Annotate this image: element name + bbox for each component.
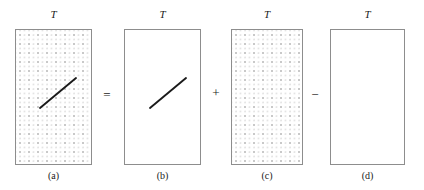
operator-equals: =: [100, 88, 114, 102]
panel-b-rectangle: [124, 29, 201, 165]
panel-b-title: T: [124, 8, 201, 20]
figure-canvas: T (a) = T (b) + T (c) − T (d): [0, 0, 424, 190]
panel-c-rectangle: [231, 29, 303, 165]
panel-a-rectangle: [15, 29, 92, 165]
panel-c-title: T: [231, 8, 303, 20]
panel-a-title: T: [15, 8, 92, 20]
operator-minus: −: [308, 88, 322, 102]
panel-b-caption: (b): [124, 170, 201, 182]
panel-d-caption: (d): [330, 170, 405, 182]
operator-plus: +: [209, 86, 223, 100]
panel-a-caption: (a): [15, 170, 92, 182]
panel-d-title: T: [330, 8, 405, 20]
panel-d-rectangle: [330, 29, 405, 165]
panel-c-caption: (c): [231, 170, 303, 182]
